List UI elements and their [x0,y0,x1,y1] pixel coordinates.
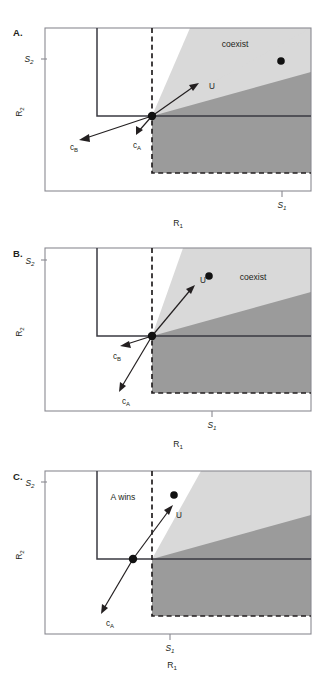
vector-label-cB: cB [70,143,78,153]
vector-cA-line [103,559,133,610]
panel-c: C. S2 S1 [0,455,329,674]
panel-c-plot: S2 S1 R2 R1 A wins U cA [0,455,329,674]
vector-cA-head [119,382,126,392]
tick-label-s2: S2 [25,256,35,267]
panel-a-shaded-regions [152,28,311,173]
region-label-coexist: coexist [222,39,249,49]
vector-label-U: U [176,511,182,520]
figure-resource-competition: A. [0,0,329,674]
axis-label-y: R2 [14,327,25,337]
equilibrium-point [129,555,137,563]
panel-b-plot: S2 S1 R2 R1 coexist U cA cB [0,232,329,455]
vector-cA-head [101,604,108,614]
supply-point [277,57,285,65]
tick-label-s1: S1 [165,643,174,654]
panel-b-shaded-regions [152,248,311,393]
tick-label-s1: S1 [207,420,216,431]
vector-label-cB: cB [113,352,121,362]
panel-c-letter: C. [13,471,23,482]
axis-label-x: R1 [173,218,183,229]
medium-shade-box [152,559,311,616]
axis-label-y: R2 [14,107,25,117]
panel-a: A. [0,0,329,232]
vector-label-cA: cA [106,619,114,629]
tick-label-s1: S1 [277,200,286,211]
medium-shade-box [152,116,311,173]
supply-point [170,491,178,499]
axis-label-y: R2 [14,550,25,560]
vector-label-cA: cA [122,397,130,407]
axis-label-x: R1 [167,660,177,671]
vector-label-cA: cA [133,141,141,151]
vector-cB-head [120,341,131,348]
axis-label-x: R1 [173,439,183,450]
vector-label-U: U [209,82,215,91]
supply-point [205,272,213,280]
medium-shade-box [152,336,311,393]
region-label-coexist: coexist [240,272,267,282]
tick-label-s2: S2 [24,54,34,65]
panel-b: B. [0,232,329,455]
vector-U-head [164,505,173,515]
panel-a-plot: S2 S1 R2 R1 coexist U cA cB [0,0,329,232]
panel-b-letter: B. [13,248,23,259]
vector-label-U: U [200,276,206,285]
vector-cB-head [79,134,90,142]
equilibrium-point [148,332,156,340]
equilibrium-point [148,112,156,120]
tick-label-s2: S2 [25,478,35,489]
panel-a-letter: A. [13,27,23,38]
region-label-a-wins: A wins [111,492,136,502]
